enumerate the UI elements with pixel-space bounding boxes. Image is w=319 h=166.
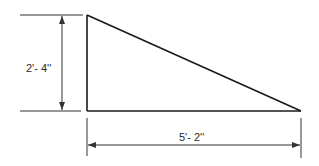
right-triangle xyxy=(87,15,301,111)
triangle-drawing xyxy=(0,0,319,166)
width-dimension-label: 5'- 2'' xyxy=(179,132,204,143)
diagram-canvas: 2'- 4'' 5'- 2'' xyxy=(0,0,319,166)
triangle-hypotenuse xyxy=(87,15,301,111)
height-dimension-label: 2'- 4'' xyxy=(26,63,51,74)
